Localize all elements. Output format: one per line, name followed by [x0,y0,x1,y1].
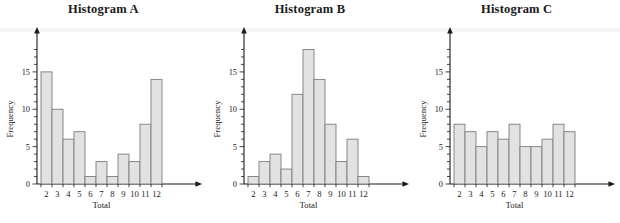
histogram-bar [553,124,564,184]
x-tick-label: 3 [55,189,59,199]
histogram-bar [498,139,509,184]
x-tick-label: 4 [273,189,278,199]
x-tick-label: 10 [544,189,553,199]
plot-area: 051015Frequency23456789101112Total [207,0,414,223]
x-tick-label: 5 [284,189,288,199]
histograms-figure: Histogram A051015Frequency23456789101112… [0,0,620,223]
histogram-bar [96,162,107,184]
x-tick-label: 11 [555,189,563,199]
histogram-bar [41,72,52,184]
histogram-bar [63,139,74,184]
histogram-bar [454,124,465,184]
histogram-bar [347,139,358,184]
plot-area: 051015Frequency23456789101112Total [413,0,620,223]
x-tick-label: 6 [502,189,507,199]
y-tick-label: 10 [22,105,30,114]
x-tick-label: 11 [348,189,356,199]
plot-area: 051015Frequency23456789101112Total [0,0,207,223]
histogram-bar [325,124,336,184]
histogram-bar [487,132,498,184]
histogram-bar [520,147,531,184]
x-tick-label: 4 [66,189,71,199]
histogram-panel-c: Histogram C051015Frequency23456789101112… [413,0,620,223]
histogram-bar [140,124,151,184]
y-tick-label: 0 [439,180,443,189]
histogram-panel-b: Histogram B051015Frequency23456789101112… [207,0,414,223]
histogram-bar [85,177,96,184]
histogram-bar [248,177,259,184]
histogram-bar [151,79,162,184]
histogram-bar [129,162,140,184]
x-tick-label: 9 [328,189,332,199]
histogram-bar [509,124,520,184]
histogram-bar [358,177,369,184]
histogram-bar [465,132,476,184]
histogram-bar [314,79,325,184]
y-tick-label: 5 [439,143,443,152]
x-axis-label: Total [93,200,112,210]
histogram-bar [107,177,118,184]
x-tick-label: 8 [524,189,528,199]
y-tick-label: 0 [26,180,30,189]
histogram-bar [270,154,281,184]
x-tick-label: 4 [480,189,485,199]
x-tick-label: 7 [306,189,311,199]
x-tick-label: 2 [44,189,48,199]
y-tick-label: 0 [232,180,236,189]
x-tick-label: 5 [491,189,495,199]
x-tick-label: 7 [513,189,518,199]
x-tick-label: 9 [535,189,539,199]
histogram-bar [259,162,270,184]
histogram-bar [52,109,63,184]
histogram-bar [542,139,553,184]
histogram-bar [118,154,129,184]
x-axis-label: Total [299,200,318,210]
y-axis-label: Frequency [5,100,15,138]
y-tick-label: 10 [228,105,236,114]
histogram-bar [476,147,487,184]
histogram-bar [531,147,542,184]
histogram-bar [281,169,292,184]
x-tick-label: 7 [99,189,104,199]
histogram-bar [292,94,303,184]
x-tick-label: 11 [141,189,149,199]
x-tick-label: 8 [110,189,114,199]
x-tick-label: 12 [152,189,161,199]
y-tick-label: 5 [26,143,30,152]
x-tick-label: 3 [469,189,473,199]
y-axis-label: Frequency [212,100,222,138]
y-tick-label: 10 [435,105,443,114]
y-tick-label: 15 [22,68,30,77]
histogram-bar [74,132,85,184]
histogram-bar [564,132,575,184]
y-axis-label: Frequency [418,100,428,138]
x-tick-label: 8 [317,189,321,199]
histogram-bar [303,49,314,184]
y-tick-label: 15 [228,68,236,77]
x-tick-label: 5 [77,189,81,199]
y-tick-label: 15 [435,68,443,77]
x-tick-label: 3 [262,189,266,199]
x-axis-label: Total [506,200,525,210]
histogram-bar [336,162,347,184]
x-tick-label: 12 [359,189,368,199]
x-tick-label: 6 [88,189,93,199]
x-tick-label: 12 [566,189,575,199]
x-tick-label: 9 [121,189,125,199]
x-tick-label: 2 [251,189,255,199]
x-tick-label: 10 [337,189,346,199]
histogram-panel-a: Histogram A051015Frequency23456789101112… [0,0,207,223]
x-tick-label: 10 [130,189,139,199]
x-tick-label: 2 [458,189,462,199]
x-tick-label: 6 [295,189,300,199]
y-tick-label: 5 [232,143,236,152]
